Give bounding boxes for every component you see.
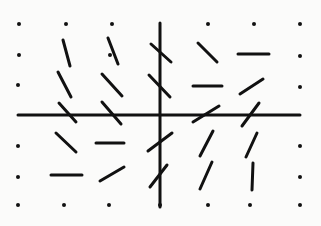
slope-segment [200,162,212,189]
slope-segment [56,133,76,152]
grid-dot [158,203,162,207]
grid-dot [17,53,21,57]
slope-segment [100,167,124,181]
grid-dot [110,22,114,26]
grid-dot [107,203,111,207]
grid-dot [64,22,68,26]
grid-dot [298,175,302,179]
slope-segment [102,74,122,96]
slope-segment [108,38,118,64]
grid-dot [16,83,20,87]
grid-dot [252,22,256,26]
slope-segment [102,102,121,124]
slope-segment [200,131,213,156]
grid-dot [16,144,20,148]
grid-dot [62,203,66,207]
grid-dot [298,203,302,207]
slope-segment [240,79,263,94]
grid-dot [298,54,302,58]
grid-dot [298,22,302,26]
grid-dot [17,22,21,26]
slope-segment [252,163,253,190]
slope-segment [58,72,71,97]
slope-field-diagram [0,0,321,226]
grid-dot [298,144,302,148]
grid-dot [206,22,210,26]
grid-dot [16,203,20,207]
slope-segment [63,40,70,66]
grid-dot [16,175,20,179]
slope-segment [246,133,257,157]
slope-segment [59,103,76,122]
grid-dot [248,203,252,207]
slope-segment [198,43,217,62]
grid-dot [298,85,302,89]
grid-dot [206,203,210,207]
slope-field-svg [0,0,321,226]
grid-dot [108,53,112,57]
